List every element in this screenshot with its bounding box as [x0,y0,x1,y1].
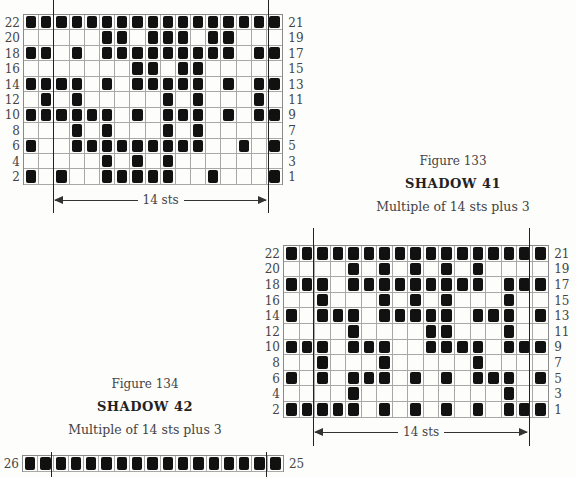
empty-stitch [331,262,347,278]
filled-stitch [115,139,130,154]
filled-stitch [439,340,455,356]
filled-stitch [346,246,362,262]
row-label-left: 16 [2,63,20,75]
empty-stitch [517,386,533,402]
filled-stitch [455,277,471,293]
filled-stitch [346,402,362,418]
empty-stitch [408,324,424,340]
filled-stitch [517,277,533,293]
repeat-start-line [313,228,314,446]
empty-stitch [85,30,100,45]
filled-stitch [176,15,191,30]
repeat-label: 14 sts [398,425,444,439]
filled-stitch [424,277,440,293]
filled-stitch [267,169,282,184]
empty-stitch [221,123,236,138]
filled-stitch [85,139,100,154]
empty-stitch [85,61,100,76]
filled-stitch [408,308,424,324]
filled-stitch [331,308,347,324]
filled-stitch [315,246,331,262]
filled-stitch [267,77,282,92]
empty-stitch [455,402,471,418]
empty-stitch [424,386,440,402]
row-label-right: 11 [288,94,308,106]
filled-stitch [471,308,487,324]
filled-stitch [70,92,85,107]
filled-stitch [24,46,39,61]
empty-stitch [237,123,252,138]
filled-stitch [161,154,176,169]
repeat-indicator: 14 sts [53,193,268,207]
filled-stitch [517,402,533,418]
empty-stitch [54,30,69,45]
filled-stitch [130,456,145,472]
filled-stitch [206,30,221,45]
row-label-right: 1 [288,171,308,183]
filled-stitch [191,123,206,138]
row-label-left: 20 [2,32,20,44]
filled-stitch [502,293,518,309]
empty-stitch [424,371,440,387]
filled-stitch [517,246,533,262]
empty-stitch [176,92,191,107]
empty-stitch [221,139,236,154]
empty-stitch [54,61,69,76]
filled-stitch [502,308,518,324]
knitting-grid [283,245,549,418]
row-label-right: 21 [288,17,308,29]
filled-stitch [176,139,191,154]
empty-stitch [176,154,191,169]
grid-row-8 [284,355,548,371]
grid-row-4 [284,386,548,402]
filled-stitch [455,340,471,356]
filled-stitch [100,169,115,184]
empty-stitch [267,61,282,76]
filled-stitch [130,139,145,154]
filled-stitch [115,46,130,61]
filled-stitch [267,108,282,123]
empty-stitch [237,154,252,169]
pattern-title: SHADOW 42 [20,399,270,414]
row-label-right: 21 [554,248,574,260]
filled-stitch [439,402,455,418]
grid-row-22 [24,15,282,30]
filled-stitch [100,46,115,61]
row-label-left: 26 [1,458,19,470]
filled-stitch [161,123,176,138]
filled-stitch [439,293,455,309]
figure-number: Figure 133 [330,154,576,168]
filled-stitch [346,308,362,324]
pattern-title: SHADOW 41 [330,176,576,191]
repeat-label: 14 sts [138,193,184,207]
repeat-end-line [266,452,267,477]
filled-stitch [191,77,206,92]
row-label-right: 3 [288,156,308,168]
empty-stitch [471,293,487,309]
filled-stitch [471,277,487,293]
filled-stitch [284,277,300,293]
empty-stitch [362,386,378,402]
filled-stitch [161,108,176,123]
filled-stitch [408,277,424,293]
filled-stitch [408,246,424,262]
row-label-left: 22 [262,248,280,260]
repeat-end-line [268,0,269,213]
empty-stitch [146,154,161,169]
grid-row-14 [24,77,282,92]
empty-stitch [54,92,69,107]
row-label-right: 7 [554,357,574,369]
filled-stitch [346,277,362,293]
row-label-right: 1 [554,404,574,416]
empty-stitch [346,355,362,371]
empty-stitch [252,123,267,138]
filled-stitch [424,324,440,340]
filled-stitch [237,15,252,30]
empty-stitch [100,61,115,76]
empty-stitch [176,169,191,184]
filled-stitch [146,139,161,154]
empty-stitch [237,108,252,123]
empty-stitch [24,154,39,169]
filled-stitch [362,371,378,387]
empty-stitch [176,123,191,138]
